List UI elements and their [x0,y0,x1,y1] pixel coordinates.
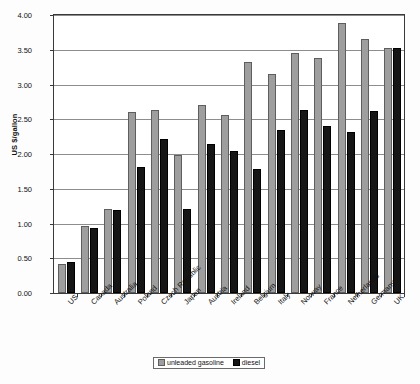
bar-gasoline [128,112,136,293]
bar-gasoline [338,23,346,293]
bar-gasoline [291,53,299,293]
bar-diesel [230,151,238,293]
y-tick-mark [50,119,54,120]
bar-diesel [370,111,378,293]
bar-group [128,15,146,293]
bar-group [81,15,99,293]
y-tick-label: 2.00 [0,150,32,159]
legend-entry-gasoline: unleaded gasoline [158,359,224,366]
y-tick-label: 2.50 [0,115,32,124]
bar-diesel [253,169,261,293]
bar-group [104,15,122,293]
y-tick-mark [50,189,54,190]
bar-diesel [137,167,145,293]
fuel-price-bar-chart: US $/gallon 0.000.501.001.502.002.503.00… [0,0,420,384]
y-tick-label: 1.50 [0,185,32,194]
bar-gasoline [314,58,322,293]
y-tick-mark [50,154,54,155]
y-tick-label: 0.50 [0,254,32,263]
chart-legend: unleaded gasoline diesel [153,357,265,369]
bar-group [314,15,332,293]
bar-group [361,15,379,293]
y-tick-mark [50,15,54,16]
bar-gasoline [81,226,89,293]
bar-gasoline [244,62,252,293]
y-tick-label: 1.00 [0,220,32,229]
y-tick-label: 0.00 [0,289,32,298]
x-tick-mark [404,293,405,297]
y-tick-label: 4.00 [0,11,32,20]
bar-group [244,15,262,293]
legend-swatch-gasoline [158,359,165,366]
bar-diesel [90,228,98,293]
bar-group [174,15,192,293]
bar-group [268,15,286,293]
legend-label-diesel: diesel [242,359,260,366]
bar-diesel [160,139,168,293]
y-tick-mark [50,85,54,86]
bar-diesel [393,48,401,293]
bar-diesel [277,130,285,293]
bar-gasoline [384,48,392,293]
bar-gasoline [104,209,112,293]
bar-gasoline [268,74,276,293]
y-tick-mark [50,293,54,294]
bar-group [221,15,239,293]
bar-diesel [300,110,308,293]
y-tick-label: 3.50 [0,46,32,55]
y-axis-title: US $/gallon [10,95,19,175]
plot-area: 0.000.501.001.502.002.503.003.504.00 [53,14,405,294]
bar-gasoline [58,264,66,293]
bar-diesel [347,132,355,293]
y-tick-mark [50,258,54,259]
bar-group [338,15,356,293]
bar-gasoline [174,155,182,293]
bar-diesel [67,262,75,293]
y-tick-mark [50,224,54,225]
y-tick-label: 3.00 [0,81,32,90]
bar-diesel [113,210,121,293]
bar-group [291,15,309,293]
legend-entry-diesel: diesel [233,359,260,366]
bar-group [151,15,169,293]
bar-group [58,15,76,293]
bar-diesel [207,144,215,293]
legend-swatch-diesel [233,359,240,366]
legend-label-gasoline: unleaded gasoline [167,359,224,366]
bar-gasoline [151,110,159,293]
bar-group [384,15,402,293]
bar-gasoline [221,115,229,293]
bar-diesel [323,126,331,293]
bar-group [198,15,216,293]
y-tick-mark [50,50,54,51]
bar-gasoline [361,39,369,293]
